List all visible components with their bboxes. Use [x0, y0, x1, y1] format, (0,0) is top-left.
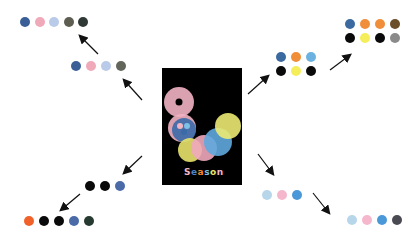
color-swatch [54, 216, 64, 226]
arrow-icon [258, 154, 273, 174]
color-swatch [24, 216, 34, 226]
color-swatch [306, 66, 316, 76]
poster-image: Season [162, 68, 242, 185]
arrow-icon [313, 193, 329, 213]
color-swatch [49, 17, 59, 27]
color-swatch [276, 66, 286, 76]
color-swatch [84, 216, 94, 226]
color-swatch [362, 215, 372, 225]
arrow-icon [248, 76, 268, 94]
title-letter: a [198, 167, 205, 177]
color-swatch [115, 181, 125, 191]
color-swatch [291, 52, 301, 62]
color-swatch [262, 190, 272, 200]
color-swatch [390, 33, 400, 43]
arrow-icon [61, 194, 80, 210]
palette-diagram: Season [0, 0, 418, 248]
color-swatch [345, 19, 355, 29]
color-swatch [64, 17, 74, 27]
color-swatch [71, 61, 81, 71]
color-swatch [35, 17, 45, 27]
poster-title: Season [184, 167, 224, 177]
arrow-icon [330, 55, 350, 70]
color-swatch [20, 17, 30, 27]
color-swatch [360, 33, 370, 43]
arrow-icon [80, 36, 98, 54]
color-swatch [360, 19, 370, 29]
color-swatch [277, 190, 287, 200]
color-swatch [375, 19, 385, 29]
color-swatch [101, 61, 111, 71]
arrow-icon [124, 80, 142, 100]
title-letter: S [184, 167, 191, 177]
arrow-icon [124, 156, 142, 173]
color-swatch [292, 190, 302, 200]
color-swatch [291, 66, 301, 76]
color-swatch [347, 215, 357, 225]
title-letter: o [210, 167, 217, 177]
title-letter: n [217, 167, 224, 177]
color-swatch [116, 61, 126, 71]
title-letter: e [191, 167, 198, 177]
color-swatch [86, 61, 96, 71]
color-swatch [390, 19, 400, 29]
color-swatch [39, 216, 49, 226]
color-swatch [100, 181, 110, 191]
color-swatch [85, 181, 95, 191]
color-swatch [392, 215, 402, 225]
color-swatch [306, 52, 316, 62]
color-swatch [375, 33, 385, 43]
color-swatch [345, 33, 355, 43]
color-swatch [276, 52, 286, 62]
color-swatch [69, 216, 79, 226]
color-swatch [78, 17, 88, 27]
poster-circle [215, 113, 241, 139]
color-swatch [377, 215, 387, 225]
